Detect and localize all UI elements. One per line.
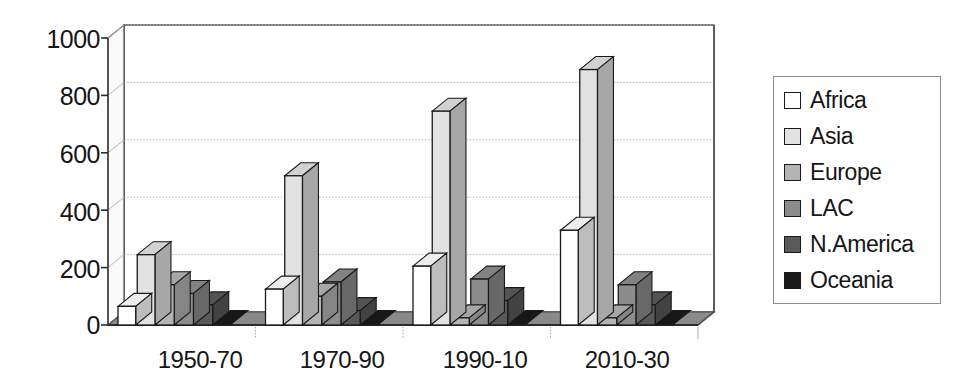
- legend-swatch-lac: [784, 200, 801, 217]
- legend-label: N.America: [810, 233, 914, 256]
- legend-label: Oceania: [810, 269, 893, 292]
- legend-item-lac[interactable]: LAC: [784, 193, 854, 223]
- bar-africa-2010-30: [561, 217, 595, 325]
- legend-label: Africa: [810, 89, 866, 112]
- x-axis-tick-label: 2010-30: [557, 348, 697, 372]
- legend-item-asia[interactable]: Asia: [784, 121, 853, 151]
- legend-label: LAC: [810, 197, 854, 220]
- legend-label: Europe: [810, 161, 882, 184]
- x-axis-tick-label: 1950-70: [130, 348, 270, 372]
- legend-swatch-africa: [784, 92, 801, 109]
- legend-swatch-asia: [784, 128, 801, 145]
- chart-legend: Africa Asia Europe LAC N.America Oceania: [773, 76, 941, 304]
- plot-side-wall: [108, 25, 124, 325]
- legend-swatch-europe: [784, 164, 801, 181]
- legend-swatch-n-america: [784, 236, 801, 253]
- legend-swatch-oceania: [784, 272, 801, 289]
- bar-africa-1990-10: [413, 253, 447, 325]
- x-axis-tick-label: 1970-90: [272, 348, 412, 372]
- legend-item-n-america[interactable]: N.America: [784, 229, 914, 259]
- legend-item-europe[interactable]: Europe: [784, 157, 882, 187]
- legend-item-oceania[interactable]: Oceania: [784, 265, 893, 295]
- legend-label: Asia: [810, 125, 853, 148]
- legend-item-africa[interactable]: Africa: [784, 85, 866, 115]
- x-axis-tick-label: 1990-10: [415, 348, 555, 372]
- bar-chart: 1000 800 600 400 200 0 1950-70 1970-90 1…: [0, 0, 961, 391]
